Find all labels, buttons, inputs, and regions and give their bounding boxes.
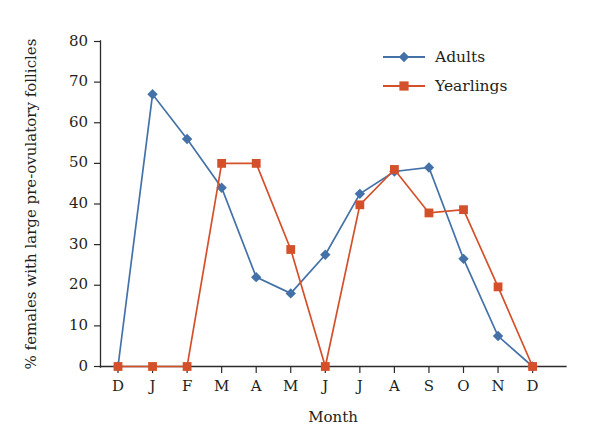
y-tick-label: 70 [69, 72, 88, 90]
chart-legend: AdultsYearlings [383, 48, 508, 95]
y-tick-label: 60 [69, 113, 88, 131]
series-yearlings [114, 159, 537, 371]
data-point [425, 209, 434, 218]
data-point [494, 282, 503, 291]
data-point [355, 189, 365, 199]
x-axis-title: Month [308, 408, 358, 426]
y-tick-label: 0 [78, 357, 88, 375]
line-chart: 01020304050607080 DJFMAMJJASOND Month % … [0, 0, 590, 444]
x-tick-label: A [388, 377, 400, 395]
x-tick-label: D [112, 377, 124, 395]
data-point [321, 362, 330, 371]
legend-item-yearlings[interactable]: Yearlings [383, 77, 508, 95]
x-tick-label: M [283, 377, 298, 395]
chart-figure: 01020304050607080 DJFMAMJJASOND Month % … [0, 0, 590, 444]
data-point [355, 200, 364, 209]
x-tick-label: O [457, 377, 469, 395]
x-tick-label: D [527, 377, 539, 395]
data-point [459, 205, 468, 214]
x-tick-label: J [355, 377, 363, 395]
y-tick-label: 50 [69, 153, 88, 171]
series-line [118, 94, 533, 366]
x-tick-label: S [424, 377, 434, 395]
legend-label: Adults [434, 48, 485, 66]
y-axis-title: % females with large pre-ovulatory folli… [22, 39, 40, 370]
legend-marker-diamond-icon [399, 52, 409, 62]
x-tick-label: J [320, 377, 328, 395]
y-tick-label: 80 [69, 32, 88, 50]
x-axis-tick-labels: DJFMAMJJASOND [112, 377, 539, 395]
legend-marker-square-icon [399, 81, 408, 90]
x-tick-label: J [148, 377, 156, 395]
legend-label: Yearlings [434, 77, 508, 95]
x-tick-label: M [214, 377, 229, 395]
series-line [118, 163, 533, 366]
series-adults [113, 89, 538, 372]
data-point [424, 162, 434, 172]
y-axis-ticks [94, 42, 101, 367]
y-tick-label: 10 [69, 316, 88, 334]
data-point [528, 362, 537, 371]
y-axis-tick-labels: 01020304050607080 [69, 32, 88, 375]
y-tick-label: 30 [69, 235, 88, 253]
legend-item-adults[interactable]: Adults [383, 48, 485, 66]
x-axis: DJFMAMJJASOND [101, 367, 567, 396]
data-point [183, 362, 192, 371]
data-point [114, 362, 123, 371]
data-point [252, 159, 261, 168]
data-series-layer [113, 89, 538, 372]
y-tick-label: 40 [69, 194, 88, 212]
data-point [390, 165, 399, 174]
data-point [148, 362, 157, 371]
data-point [251, 272, 261, 282]
x-tick-label: N [491, 377, 504, 395]
y-tick-label: 20 [69, 275, 88, 293]
y-axis: 01020304050607080 [69, 32, 101, 375]
x-tick-label: F [182, 377, 192, 395]
x-tick-label: A [250, 377, 262, 395]
data-point [458, 254, 468, 264]
data-point [217, 159, 226, 168]
data-point [286, 245, 295, 254]
